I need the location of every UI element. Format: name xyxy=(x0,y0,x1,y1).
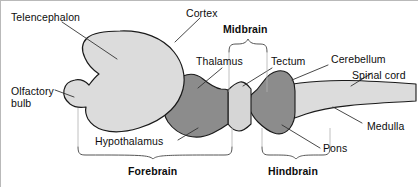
leader-pons xyxy=(282,125,320,148)
label-telencephalon: Telencephalon xyxy=(11,12,80,24)
leader-medulla xyxy=(333,107,362,123)
label-midbrain: Midbrain xyxy=(223,24,268,36)
label-olfactory-bulb: Olfactory bulb xyxy=(11,86,71,109)
bracket-midbrain xyxy=(229,39,267,52)
label-cortex: Cortex xyxy=(186,8,218,20)
label-hindbrain: Hindbrain xyxy=(268,166,318,178)
label-thalamus: Thalamus xyxy=(196,56,243,68)
brain-anatomy-diagram: Telencephalon Cortex Midbrain Thalamus T… xyxy=(0,0,418,187)
bracket-forebrain xyxy=(78,147,232,159)
bracket-hindbrain xyxy=(262,147,330,159)
leader-cortex xyxy=(175,18,200,42)
label-hypothalamus: Hypothalamus xyxy=(95,136,163,148)
region-tectum xyxy=(228,82,251,131)
label-spinal-cord: Spinal cord xyxy=(352,70,406,82)
label-tectum: Tectum xyxy=(271,56,305,68)
region-cerebellum-pons xyxy=(249,71,295,134)
label-medulla: Medulla xyxy=(367,121,404,133)
label-cerebellum: Cerebellum xyxy=(331,54,386,66)
label-pons: Pons xyxy=(323,143,347,155)
label-forebrain: Forebrain xyxy=(128,166,177,178)
